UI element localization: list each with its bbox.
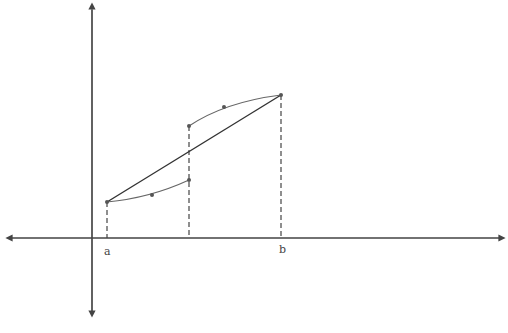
- dashed-guides: [107, 95, 281, 238]
- point-upper-mid: [222, 105, 226, 109]
- label-b: b: [279, 243, 286, 256]
- point-lower-mid: [150, 193, 154, 197]
- label-a: a: [104, 245, 111, 258]
- lower-curve: [107, 180, 189, 202]
- upper-curve: [189, 95, 281, 126]
- diagram-canvas: [0, 0, 508, 333]
- point-upper-start: [187, 124, 191, 128]
- point-a: [105, 200, 109, 204]
- point-b: [279, 93, 283, 97]
- secant-line: [107, 95, 281, 202]
- point-lower-end: [187, 178, 191, 182]
